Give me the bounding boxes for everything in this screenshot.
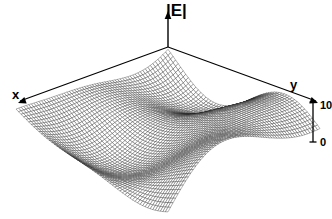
plot-canvas: [0, 0, 332, 219]
scale-bar-top-label: 10: [320, 100, 332, 111]
surface-plot-figure: |E| x y 10 0: [0, 0, 332, 219]
scale-bar-bottom-label: 0: [320, 137, 326, 148]
wireframe-mesh-surface: [16, 49, 320, 212]
axis-label-vertical: |E|: [166, 2, 187, 19]
axis-label-x: x: [12, 88, 19, 101]
axis-label-y: y: [290, 78, 297, 91]
